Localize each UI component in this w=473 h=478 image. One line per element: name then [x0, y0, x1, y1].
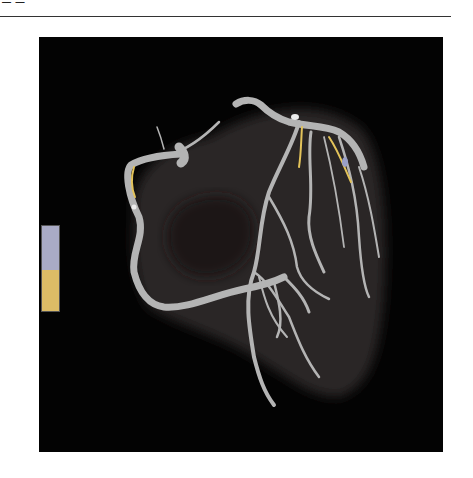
legend-swatch-yellow [42, 270, 59, 311]
heart-rendering [39, 37, 443, 452]
page-header-fragment: — — [2, 0, 26, 7]
legend-swatch-lavender [42, 226, 59, 270]
header-rule [0, 16, 451, 17]
color-legend [41, 225, 60, 312]
ct-angiography-figure [39, 37, 443, 452]
